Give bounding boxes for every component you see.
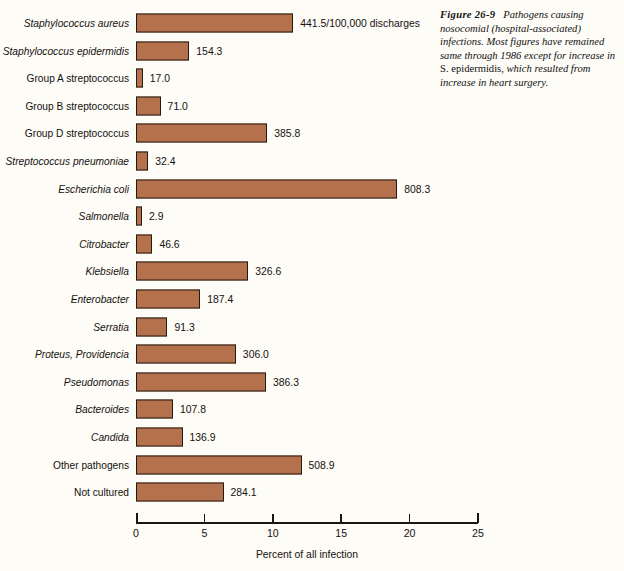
bar-row: Serratia91.3 bbox=[0, 314, 440, 340]
category-label: Enterobacter bbox=[0, 294, 129, 305]
x-axis-title: Percent of all infection bbox=[136, 549, 478, 560]
bar-value-label: 2.9 bbox=[149, 211, 163, 222]
x-axis-tick-label: 15 bbox=[335, 527, 347, 539]
bar bbox=[136, 124, 267, 143]
category-label: Group D streptococcus bbox=[0, 128, 129, 139]
category-label: Streptococcus pneumoniae bbox=[0, 156, 129, 167]
bar bbox=[136, 428, 183, 447]
figure-26-9: Staphylococcus aureus441.5/100,000 disch… bbox=[0, 0, 624, 571]
bar bbox=[136, 234, 152, 253]
bar-row: Escherichia coli808.3 bbox=[0, 176, 440, 202]
category-label: Serratia bbox=[0, 321, 129, 332]
x-axis-end-tick bbox=[477, 513, 479, 523]
category-label: Bacteroides bbox=[0, 404, 129, 415]
x-axis-tick bbox=[272, 514, 274, 523]
category-label: Candida bbox=[0, 432, 129, 443]
x-axis-tick bbox=[409, 514, 411, 523]
caption-species-name: S. epidermidis, bbox=[440, 63, 504, 74]
bar-chart: Staphylococcus aureus441.5/100,000 disch… bbox=[0, 0, 440, 571]
bar-row: Staphylococcus epidermidis154.3 bbox=[0, 38, 440, 64]
bar-value-label: 385.8 bbox=[274, 128, 300, 139]
bar-row: Pseudomonas386.3 bbox=[0, 369, 440, 395]
x-axis-tick-label: 10 bbox=[267, 527, 279, 539]
bar-row: Not cultured284.1 bbox=[0, 479, 440, 505]
figure-caption: Figure 26-9 Pathogens causing nosocomial… bbox=[440, 8, 618, 90]
x-axis-tick bbox=[340, 514, 342, 523]
bar-row: Streptococcus pneumoniae32.4 bbox=[0, 148, 440, 174]
x-axis-tick-label: 25 bbox=[472, 527, 484, 539]
bar bbox=[136, 69, 143, 88]
category-label: Salmonella bbox=[0, 211, 129, 222]
category-label: Not cultured bbox=[0, 487, 129, 498]
bar-row: Group D streptococcus385.8 bbox=[0, 120, 440, 146]
category-label: Proteus, Providencia bbox=[0, 349, 129, 360]
bar-value-label: 71.0 bbox=[168, 100, 188, 111]
bar bbox=[136, 345, 236, 364]
bar bbox=[136, 96, 161, 115]
bar-value-label: 17.0 bbox=[150, 73, 170, 84]
bar bbox=[136, 455, 302, 474]
bar bbox=[136, 207, 142, 226]
x-axis-tick bbox=[204, 514, 206, 523]
x-axis-line bbox=[136, 522, 478, 524]
bar-row: Group B streptococcus71.0 bbox=[0, 93, 440, 119]
bar-value-label: 306.0 bbox=[243, 349, 269, 360]
bar-row: Salmonella2.9 bbox=[0, 203, 440, 229]
bar-row: Citrobacter46.6 bbox=[0, 231, 440, 257]
bar-row: Bacteroides107.8 bbox=[0, 396, 440, 422]
bar-value-label: 107.8 bbox=[180, 404, 206, 415]
category-label: Citrobacter bbox=[0, 238, 129, 249]
bar bbox=[136, 317, 167, 336]
x-axis-tick-label: 0 bbox=[133, 527, 139, 539]
bar-value-label: 187.4 bbox=[207, 294, 233, 305]
bar-value-label: 154.3 bbox=[196, 45, 222, 56]
bar-value-label: 508.9 bbox=[309, 459, 335, 470]
bar-value-label: 326.6 bbox=[255, 266, 281, 277]
bar-value-label: 32.4 bbox=[155, 156, 175, 167]
bar-row: Klebsiella326.6 bbox=[0, 258, 440, 284]
category-label: Pseudomonas bbox=[0, 376, 129, 387]
x-axis-origin-tick bbox=[136, 513, 138, 523]
bar bbox=[136, 400, 173, 419]
bar-value-label: 91.3 bbox=[174, 321, 194, 332]
category-label: Group A streptococcus bbox=[0, 73, 129, 84]
bar bbox=[136, 290, 200, 309]
category-label: Other pathogens bbox=[0, 459, 129, 470]
figure-number: Figure 26-9 bbox=[440, 9, 495, 20]
bar-value-label: 284.1 bbox=[231, 487, 257, 498]
bar-value-label: 46.6 bbox=[159, 238, 179, 249]
bar-value-label: 808.3 bbox=[404, 183, 430, 194]
bar-row: Group A streptococcus17.0 bbox=[0, 65, 440, 91]
category-label: Group B streptococcus bbox=[0, 100, 129, 111]
category-label: Escherichia coli bbox=[0, 183, 129, 194]
bar bbox=[136, 14, 293, 33]
category-label: Staphylococcus epidermidis bbox=[0, 45, 129, 56]
bar-value-label: 386.3 bbox=[273, 376, 299, 387]
bar-row: Proteus, Providencia306.0 bbox=[0, 341, 440, 367]
bar bbox=[136, 179, 397, 198]
bar-value-label: 136.9 bbox=[190, 432, 216, 443]
bar bbox=[136, 372, 266, 391]
bar-row: Staphylococcus aureus441.5/100,000 disch… bbox=[0, 10, 440, 36]
bar bbox=[136, 152, 148, 171]
category-label: Staphylococcus aureus bbox=[0, 18, 129, 29]
bar-row: Enterobacter187.4 bbox=[0, 286, 440, 312]
bar-value-label: 441.5/100,000 discharges bbox=[300, 18, 420, 29]
bar-row: Candida136.9 bbox=[0, 424, 440, 450]
bar bbox=[136, 262, 248, 281]
bar bbox=[136, 41, 189, 60]
bar-row: Other pathogens508.9 bbox=[0, 452, 440, 478]
category-label: Klebsiella bbox=[0, 266, 129, 277]
bar bbox=[136, 483, 224, 502]
x-axis-tick-label: 20 bbox=[404, 527, 416, 539]
x-axis-tick-label: 5 bbox=[201, 527, 207, 539]
